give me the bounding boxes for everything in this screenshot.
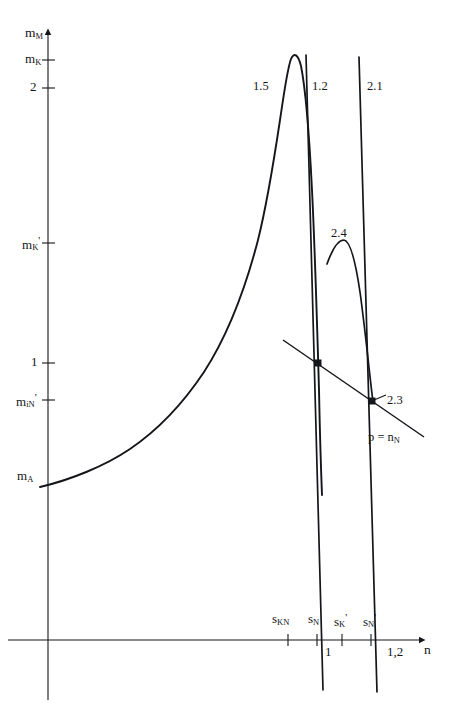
x-tick-label-sK-prime: sK' [334, 612, 347, 629]
plot-svg [0, 0, 452, 721]
y-tick-label-miN-prime: miN' [16, 392, 37, 409]
y-tick-label-mA: mA [17, 469, 33, 483]
load-line-equation-label: p = nN [368, 431, 400, 444]
x-axis-label: n [424, 643, 431, 657]
y-tick-label-1: 1 [31, 355, 38, 368]
operating-point-marker [369, 398, 376, 405]
x-tick-label-sN-prime: sN' [363, 612, 376, 629]
operating-point-marker [315, 360, 322, 367]
curve-label-1-5: 1.5 [253, 80, 269, 93]
y-tick-label-2: 2 [30, 80, 37, 93]
x-tick-label-sN: sN [308, 612, 319, 626]
line-2-1 [359, 57, 377, 692]
x-tick-label-sKN: sKN [272, 612, 289, 626]
curve-label-2-1: 2.1 [367, 80, 383, 93]
curve-1-5 [40, 55, 322, 495]
x-tick-label-1-2: 1,2 [387, 645, 403, 658]
y-axis-label: mM [25, 26, 43, 40]
figure-canvas: mM mK 2 mK' 1 miN' mA sKN sN sK' sN' 1 1… [0, 0, 452, 721]
y-tick-label-mK-prime: mK' [22, 235, 40, 252]
curve-label-2-3: 2.3 [387, 394, 403, 407]
curve-label-1-2: 1.2 [312, 80, 328, 93]
curve-label-2-4: 2.4 [331, 227, 347, 240]
leader-2-3 [374, 395, 386, 400]
load-line-2-3 [283, 340, 424, 437]
x-tick-label-1: 1 [325, 645, 332, 658]
y-tick-label-mK: mK [25, 52, 41, 66]
line-1-2 [306, 55, 323, 690]
